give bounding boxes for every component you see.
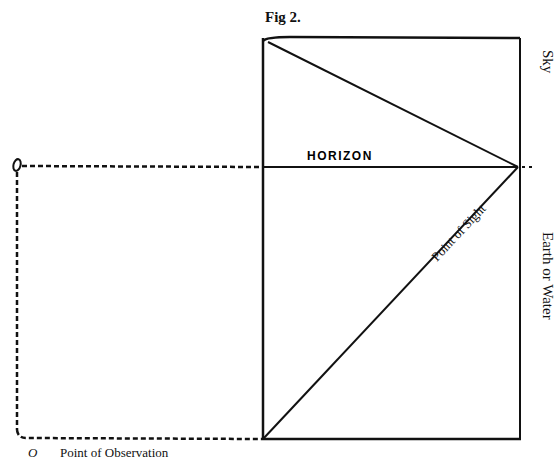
picture-plane: [262, 37, 521, 440]
perspective-diagram: Fig 2. HORIZON Point of Sight Sky Earth …: [0, 0, 560, 462]
sky-label: Sky: [540, 50, 556, 74]
earth-or-water-label: Earth or Water: [540, 232, 556, 320]
point-of-observation-label: Point of Observation: [60, 445, 169, 460]
horizon-label: HORIZON: [307, 149, 373, 163]
sightline-upper: [268, 42, 518, 167]
observer-marker-label: O: [28, 445, 38, 460]
observer-eye-icon: [12, 158, 22, 171]
observer-dashed-lines: [17, 166, 262, 439]
figure-caption: Fig 2.: [265, 9, 301, 25]
point-of-sight-label: Point of Sight: [428, 201, 489, 264]
